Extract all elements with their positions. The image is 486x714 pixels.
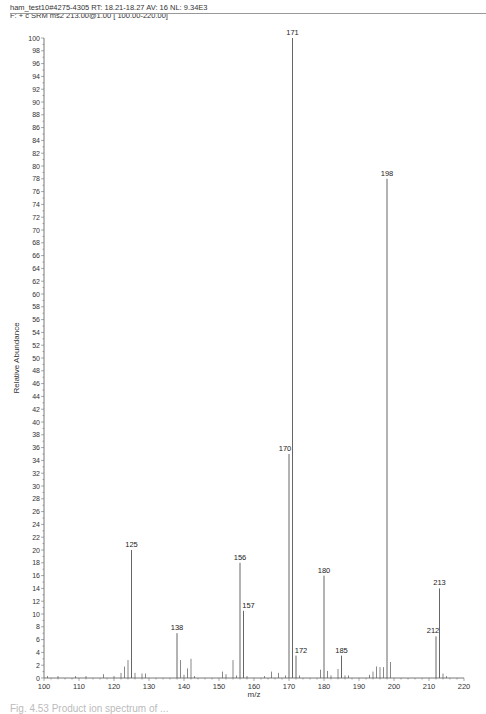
y-tick-label: 36 <box>32 444 40 451</box>
y-tick-label: 90 <box>32 99 40 106</box>
y-tick-label: 32 <box>32 470 40 477</box>
y-tick-label: 78 <box>32 175 40 182</box>
peak-label: 212 <box>427 626 440 635</box>
y-tick-label: 38 <box>32 431 40 438</box>
peak-label: 185 <box>335 646 348 655</box>
x-tick-label: 190 <box>353 682 366 691</box>
x-tick-label: 220 <box>458 682 471 691</box>
x-tick-label: 210 <box>423 682 436 691</box>
y-tick-label: 56 <box>32 316 40 323</box>
y-tick-label: 42 <box>32 406 40 413</box>
y-tick-label: 28 <box>32 495 40 502</box>
peak-label: 170 <box>279 444 292 453</box>
x-tick-label: 100 <box>38 682 51 691</box>
y-tick-label: 54 <box>32 329 40 336</box>
y-tick-label: 64 <box>32 265 40 272</box>
y-tick-label: 70 <box>32 227 40 234</box>
x-axis-label: m/z <box>248 690 261 699</box>
y-tick-label: 24 <box>32 521 40 528</box>
peak-label: 156 <box>234 553 247 562</box>
y-tick-label: 12 <box>32 598 40 605</box>
y-tick-label: 50 <box>32 355 40 362</box>
y-tick-label: 66 <box>32 252 40 259</box>
y-tick-label: 74 <box>32 201 40 208</box>
y-tick-label: 44 <box>32 393 40 400</box>
y-axis: 0246810121416182022242628303234363840424… <box>28 35 44 682</box>
y-tick-label: 60 <box>32 291 40 298</box>
y-tick-label: 26 <box>32 508 40 515</box>
y-tick-label: 96 <box>32 60 40 67</box>
y-tick-label: 100 <box>28 35 40 42</box>
y-tick-label: 22 <box>32 534 40 541</box>
y-tick-label: 98 <box>32 47 40 54</box>
y-axis-label: Relative Abundance <box>12 322 21 394</box>
y-tick-label: 30 <box>32 483 40 490</box>
y-tick-label: 92 <box>32 86 40 93</box>
y-tick-label: 0 <box>36 675 40 682</box>
y-tick-label: 72 <box>32 214 40 221</box>
y-tick-label: 18 <box>32 559 40 566</box>
y-tick-label: 16 <box>32 572 40 579</box>
y-tick-label: 94 <box>32 73 40 80</box>
peaks: 125138156157170171172180185198212213 <box>48 28 447 678</box>
y-tick-label: 6 <box>36 636 40 643</box>
y-tick-label: 84 <box>32 137 40 144</box>
y-tick-label: 34 <box>32 457 40 464</box>
x-tick-label: 200 <box>388 682 401 691</box>
y-tick-label: 40 <box>32 419 40 426</box>
peak-label: 138 <box>171 623 184 632</box>
x-tick-label: 140 <box>178 682 191 691</box>
x-tick-label: 110 <box>73 682 85 691</box>
peak-label: 157 <box>242 601 255 610</box>
y-tick-label: 88 <box>32 111 40 118</box>
peak-label: 172 <box>295 646 308 655</box>
y-tick-label: 68 <box>32 239 40 246</box>
peak-label: 125 <box>125 540 138 549</box>
y-tick-label: 20 <box>32 547 40 554</box>
y-tick-label: 52 <box>32 342 40 349</box>
y-tick-label: 76 <box>32 188 40 195</box>
peak-label: 171 <box>286 28 299 37</box>
y-tick-label: 10 <box>32 611 40 618</box>
y-tick-label: 14 <box>32 585 40 592</box>
y-tick-label: 48 <box>32 367 40 374</box>
x-tick-label: 180 <box>318 682 331 691</box>
y-tick-label: 62 <box>32 278 40 285</box>
x-tick-label: 170 <box>283 682 296 691</box>
figure-caption: Fig. 4.53 Product ion spectrum of ... <box>10 703 168 714</box>
y-tick-label: 80 <box>32 163 40 170</box>
peak-label: 180 <box>318 566 331 575</box>
y-tick-label: 4 <box>36 649 40 656</box>
peak-label: 198 <box>381 169 394 178</box>
x-tick-label: 120 <box>108 682 121 691</box>
y-tick-label: 2 <box>36 662 40 669</box>
y-tick-label: 58 <box>32 303 40 310</box>
x-tick-label: 150 <box>213 682 226 691</box>
y-tick-label: 8 <box>36 623 40 630</box>
y-tick-label: 82 <box>32 150 40 157</box>
y-tick-label: 86 <box>32 124 40 131</box>
y-tick-label: 46 <box>32 380 40 387</box>
peak-label: 213 <box>433 578 446 587</box>
x-tick-label: 130 <box>143 682 156 691</box>
